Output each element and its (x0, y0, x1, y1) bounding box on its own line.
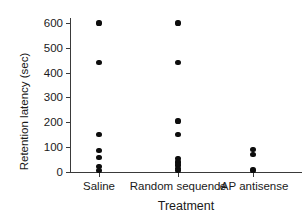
data-point (96, 20, 101, 25)
data-point (250, 167, 255, 172)
x-tick (99, 173, 100, 177)
y-tick (66, 48, 70, 49)
scatter-plot-figure: Retention latency (sec) 0100200300400500… (0, 0, 308, 223)
y-tick-label: 600 (44, 17, 63, 29)
y-tick-label: 100 (44, 141, 63, 153)
y-tick (66, 73, 70, 74)
y-tick (66, 97, 70, 98)
y-tick (66, 122, 70, 123)
y-tick-label: 200 (44, 116, 63, 128)
data-point (96, 148, 101, 153)
y-tick (66, 172, 70, 173)
data-point (175, 132, 180, 137)
data-point (96, 132, 101, 137)
data-point (96, 168, 101, 173)
x-tick (178, 173, 179, 177)
data-point (175, 20, 180, 25)
data-point (175, 168, 180, 173)
plot-area: 0100200300400500600 SalineRandom sequenc… (70, 18, 302, 172)
y-tick (66, 147, 70, 148)
data-point (175, 118, 180, 123)
y-tick-label: 400 (44, 67, 63, 79)
x-tick-label-iap-antisense: IAP antisense (218, 180, 289, 192)
y-tick-label: 0 (57, 166, 63, 178)
y-axis-label: Retention latency (sec) (18, 0, 36, 223)
x-axis-line (70, 172, 302, 173)
y-tick-label: 300 (44, 91, 63, 103)
x-tick-label-random-sequence: Random sequence (130, 180, 227, 192)
y-axis-line (70, 18, 71, 172)
data-point (96, 155, 101, 160)
y-tick-label: 500 (44, 42, 63, 54)
data-point (250, 152, 255, 157)
x-tick (253, 173, 254, 177)
y-tick (66, 23, 70, 24)
x-tick-label-saline: Saline (83, 180, 115, 192)
data-point (175, 60, 180, 65)
x-axis-label: Treatment (70, 199, 302, 213)
data-point (96, 60, 101, 65)
